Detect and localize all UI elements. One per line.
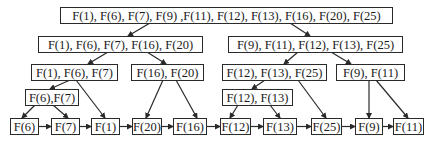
leaf-f20: F(20): [132, 118, 162, 135]
node-l3-a: F(6),F(7): [25, 89, 79, 106]
edge-l3a-f6: [22, 105, 35, 118]
edge-l2c-l3c: [252, 80, 265, 89]
edge-l1right-l2d: [331, 52, 351, 64]
edge-root-l1right: [290, 23, 310, 36]
edge-l2d-f11: [376, 80, 408, 118]
node-l1-left: F(1), F(6), F(7), F(16), F(20): [38, 36, 203, 53]
node-root: F(1), F(6), F(7), F(9) ,F(11), F(12), F(…: [60, 7, 393, 24]
edge-l2a-f1: [76, 80, 105, 118]
edge-l2b-f16: [176, 80, 197, 118]
leaf-f9: F(9): [355, 118, 383, 135]
leaf-f7: F(7): [51, 118, 80, 135]
leaf-f12: F(12): [220, 118, 251, 135]
edge-l2c-f25: [298, 80, 326, 118]
edge-l2b-f20: [146, 80, 163, 118]
edge-l2a-l3a: [50, 80, 70, 89]
edge-l3c-f13: [270, 105, 280, 118]
leaf-f13: F(13): [263, 118, 297, 135]
edge-root-l1left: [128, 23, 150, 36]
edge-l1right-l2c: [284, 52, 298, 64]
node-l2-d: F(9), F(11): [336, 64, 405, 81]
edge-l3a-f7: [53, 105, 68, 118]
tree-diagram: F(1), F(6), F(7), F(9) ,F(11), F(12), F(…: [0, 0, 434, 146]
leaf-f11: F(11): [393, 118, 424, 135]
leaf-f25: F(25): [311, 118, 342, 135]
node-l2-c: F(12), F(13), F(25): [222, 64, 327, 81]
leaf-f16: F(16): [173, 118, 207, 135]
leaf-f1: F(1): [91, 118, 120, 135]
edge-l3c-f12: [230, 105, 238, 118]
edge-l1left-l2b: [147, 52, 166, 64]
node-l2-a: F(1), F(6), F(7): [31, 64, 118, 81]
node-l1-right: F(9), F(11), F(12), F(13), F(25): [228, 36, 403, 53]
edge-l1left-l2a: [88, 52, 108, 64]
leaf-f6: F(6): [10, 118, 39, 135]
node-l2-b: F(16), F(20): [131, 64, 204, 81]
node-l3-c: F(12), F(13): [222, 89, 293, 106]
